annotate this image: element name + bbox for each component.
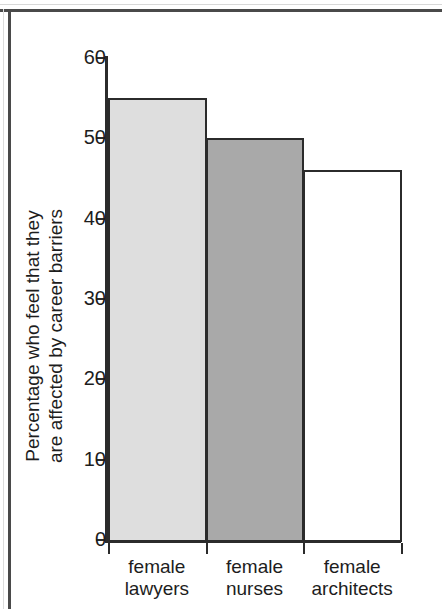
y-axis-tick-label-text: 50 <box>60 127 106 147</box>
x-axis-tick <box>108 543 110 554</box>
x-axis-label-line-1: female <box>226 556 283 577</box>
y-axis-tick-label: 40 <box>40 208 106 228</box>
x-axis-label-line-1: female <box>324 556 381 577</box>
y-axis-tick-label-text: 20 <box>60 368 106 388</box>
bar-chart: Percentage who feel that they are affect… <box>0 0 442 609</box>
y-axis-title-line-2: are affected by career barriers <box>44 126 67 546</box>
y-axis-tick-label-text: 10 <box>60 449 106 469</box>
y-axis-tick-label: 10 <box>40 449 106 469</box>
y-axis-tick-label: 0 <box>40 529 106 549</box>
y-axis-title-line-1: Percentage who feel that they <box>22 210 43 461</box>
x-axis-tick <box>401 543 403 554</box>
y-axis-tick-label-text: 40 <box>60 208 106 228</box>
y-axis-tick-label-text: 0 <box>60 529 106 549</box>
x-axis-label-line-1: female <box>128 556 185 577</box>
y-axis-tick-label: 20 <box>40 368 106 388</box>
chart-page: Percentage who feel that they are affect… <box>0 0 442 609</box>
bar <box>206 138 305 542</box>
x-axis-tick <box>303 543 305 554</box>
y-axis-tick-label: 50 <box>40 127 106 147</box>
y-axis-title: Percentage who feel that they are affect… <box>0 126 90 546</box>
x-axis-label-line-2: architects <box>286 578 418 600</box>
bar <box>108 98 207 542</box>
y-axis-tick-label-text: 60 <box>60 47 106 67</box>
x-axis-tick <box>206 543 208 554</box>
y-axis-tick-label: 60 <box>40 47 106 67</box>
y-axis-tick-label-text: 30 <box>60 288 106 308</box>
x-axis-label: femalearchitects <box>286 556 418 600</box>
y-axis-tick-label: 30 <box>40 288 106 308</box>
bar <box>303 170 402 542</box>
